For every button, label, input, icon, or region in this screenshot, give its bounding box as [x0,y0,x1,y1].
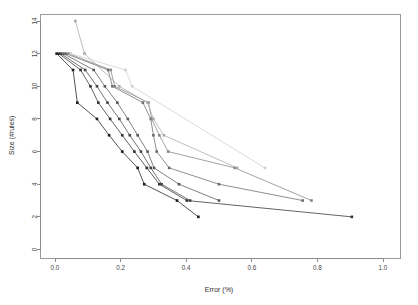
series-line [66,54,302,201]
data-point [89,85,92,88]
data-point [127,118,130,121]
y-tick-label: 6 [31,149,38,153]
data-point [109,69,112,72]
data-point [236,167,239,170]
axes-layer: 0.00.20.40.60.81.002468101214 [31,17,388,270]
data-point [96,118,99,121]
data-point [84,69,87,72]
data-point [72,69,75,72]
data-point [152,118,155,121]
plot-frame [41,15,401,259]
data-point [92,69,95,72]
series-line [69,54,312,201]
data-point [153,167,156,170]
data-point [116,101,119,104]
data-point [60,52,63,55]
data-point [96,85,99,88]
series-7 [74,20,238,169]
plot-border [41,15,401,259]
chart-container: 0.00.20.40.60.81.002468101214 Error (%)S… [0,0,418,305]
data-point [136,134,139,137]
series-line [75,21,237,168]
data-point [176,199,179,202]
data-point [128,134,131,137]
data-point [69,52,72,55]
data-point [104,85,107,88]
y-tick-label: 2 [31,215,38,219]
data-point [62,52,65,55]
y-tick-label: 12 [31,50,38,58]
data-point [155,150,158,153]
series-line [57,54,199,217]
x-tick-label: 0.0 [51,264,60,271]
x-tick-label: 1.0 [379,264,388,271]
data-point [152,134,155,137]
series-6 [67,52,312,202]
y-tick-label: 14 [31,17,38,25]
data-point [97,101,100,104]
data-point [65,52,68,55]
series-5 [65,52,304,202]
data-point [140,150,143,153]
data-point [136,167,139,170]
data-point [118,118,121,121]
data-point [264,167,267,170]
data-point [118,85,121,88]
y-tick-label: 10 [31,82,38,90]
y-tick-label: 4 [31,182,38,186]
x-tick-label: 0.4 [182,264,191,271]
data-point [133,150,136,153]
data-point [106,101,109,104]
data-point [76,101,79,104]
series-2 [58,52,354,218]
x-tick-label: 0.8 [313,264,322,271]
data-point [168,167,171,170]
data-point [121,134,124,137]
data-point [124,69,127,72]
data-point [111,85,114,88]
chart-canvas: 0.00.20.40.60.81.002468101214 Error (%)S… [0,0,418,305]
data-point [160,183,163,186]
y-tick-label: 8 [31,117,38,121]
data-point [197,216,200,219]
x-tick-label: 0.6 [247,264,256,271]
data-point [146,101,149,104]
data-point [121,150,124,153]
x-axis-title: Error (%) [205,286,233,294]
data-point [146,150,149,153]
data-point [109,118,112,121]
data-point [113,85,116,88]
data-point [218,199,221,202]
series-layer [55,20,353,218]
series-line [59,54,352,217]
data-point [301,199,304,202]
series-line [64,54,219,201]
data-point [142,101,145,104]
data-point [178,183,181,186]
data-point [143,183,146,186]
data-point [108,134,111,137]
data-point [83,52,86,55]
y-axis-title: Size (#rules) [8,116,16,155]
data-point [158,183,161,186]
series-4 [62,52,220,202]
data-point [146,167,149,170]
data-point [351,216,354,219]
data-point [158,134,161,137]
data-point [186,199,189,202]
data-point [189,199,192,202]
data-point [55,52,58,55]
data-point [149,167,152,170]
y-tick-label: 0 [31,247,38,251]
data-point [163,134,166,137]
data-point [79,69,82,72]
data-point [310,199,313,202]
data-point [131,85,134,88]
data-point [74,20,77,23]
data-point [218,183,221,186]
x-tick-label: 0.2 [116,264,125,271]
data-point [167,150,170,153]
